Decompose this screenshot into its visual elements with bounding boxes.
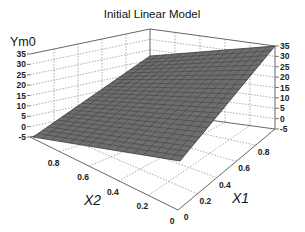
surface <box>33 46 275 161</box>
z-tick-label: 30 <box>280 51 290 61</box>
z-tick-label: 0 <box>21 122 26 132</box>
z-tick-label: -5 <box>18 132 26 142</box>
x1-axis-label: X1 <box>231 190 249 206</box>
z-tick-label: -5 <box>280 124 288 134</box>
z-tick-label: 5 <box>21 111 26 121</box>
z-tick-label: 10 <box>280 93 290 103</box>
x2-axis-label: X2 <box>83 192 101 208</box>
x2-ticks: 00.20.40.60.8 <box>48 158 175 226</box>
x2-tick-label: 0.8 <box>48 158 60 168</box>
z-tick-label: 25 <box>17 70 27 80</box>
z-axis-label: Ym0 <box>10 35 36 49</box>
x1-tick-label: 0.4 <box>219 180 231 190</box>
x2-tick-label: 0 <box>170 216 175 226</box>
x2-tick-label: 0.4 <box>107 187 119 197</box>
z-ticks-right: 35302520151050-5 <box>275 41 290 134</box>
z-tick-label: 15 <box>17 91 27 101</box>
z-tick-label: 10 <box>17 101 27 111</box>
z-tick-label: 25 <box>280 62 290 72</box>
x1-tick-label: 0.8 <box>258 147 270 157</box>
z-tick-label: 30 <box>17 59 27 69</box>
z-tick-label: 15 <box>280 83 290 93</box>
surface-chart: Initial Linear Model Ym0 35302520151050-… <box>0 0 305 232</box>
chart-title: Initial Linear Model <box>104 8 201 20</box>
z-tick-label: 20 <box>280 72 290 82</box>
x1-tick-label: 0.6 <box>238 163 250 173</box>
z-tick-label: 35 <box>280 41 290 51</box>
z-tick-label: 0 <box>280 114 285 124</box>
z-tick-label: 35 <box>17 49 27 59</box>
x2-tick-label: 0.2 <box>136 201 148 211</box>
x2-tick-label: 0.6 <box>77 172 89 182</box>
x1-tick-label: 0 <box>184 212 189 222</box>
z-ticks-left: 35302520151050-5 <box>17 49 30 142</box>
z-tick-label: 20 <box>17 80 27 90</box>
z-tick-label: 5 <box>280 103 285 113</box>
x1-tick-label: 0.2 <box>199 196 211 206</box>
